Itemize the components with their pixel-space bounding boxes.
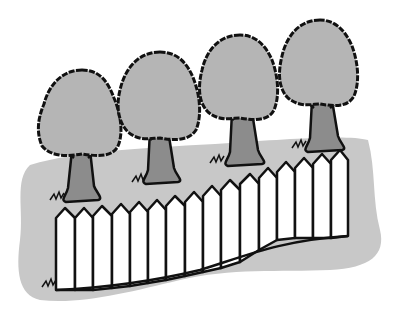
scene-illustration xyxy=(0,0,393,318)
tree-4 xyxy=(280,20,358,152)
clipart-scene xyxy=(0,0,393,318)
